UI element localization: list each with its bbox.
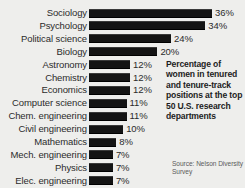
category-label: Chem. engineering xyxy=(0,110,87,121)
bar xyxy=(89,9,212,18)
bar xyxy=(89,60,130,69)
bar xyxy=(89,73,130,82)
value-label: 34% xyxy=(208,21,227,31)
category-label: Psychology xyxy=(0,20,87,31)
value-label: 7% xyxy=(116,176,130,186)
value-label: 12% xyxy=(133,73,152,83)
chart-caption: Percentage of women in tenured and tenur… xyxy=(166,59,244,121)
chart-source: Source: Nelson Diversity Survey xyxy=(172,160,244,176)
category-label: Biology xyxy=(0,46,87,57)
bar xyxy=(89,176,113,185)
bar-group: 36% xyxy=(89,8,234,18)
category-label: Economics xyxy=(0,84,87,95)
category-label: Mathematics xyxy=(0,136,87,147)
chart-row: Biology20% xyxy=(0,46,245,59)
chart-row: Elec. engineering7% xyxy=(0,175,245,188)
value-label: 7% xyxy=(116,150,130,160)
bar xyxy=(89,138,116,147)
bar xyxy=(89,99,127,108)
chart-row: Psychology34% xyxy=(0,20,245,33)
category-label: Physics xyxy=(0,162,87,173)
category-label: Elec. engineering xyxy=(0,175,87,186)
category-label: Political science xyxy=(0,33,87,44)
bar-group: 7% xyxy=(89,176,129,186)
value-label: 11% xyxy=(130,111,148,121)
bar-group: 12% xyxy=(89,73,152,83)
bar-chart: Sociology36%Psychology34%Political scien… xyxy=(0,0,245,188)
category-label: Astronomy xyxy=(0,59,87,70)
bar-group: 20% xyxy=(89,47,179,57)
bar-group: 11% xyxy=(89,111,148,121)
bar xyxy=(89,34,171,43)
chart-row: Political science24% xyxy=(0,33,245,46)
value-label: 24% xyxy=(174,34,193,44)
bar xyxy=(89,125,123,134)
bar xyxy=(89,21,205,30)
category-label: Computer science xyxy=(0,97,87,108)
category-label: Chemistry xyxy=(0,72,87,83)
value-label: 12% xyxy=(133,60,152,70)
chart-row: Civil engineering10% xyxy=(0,123,245,136)
bar-group: 10% xyxy=(89,124,145,134)
category-label: Civil engineering xyxy=(0,123,87,134)
category-label: Sociology xyxy=(0,7,87,18)
bar-group: 8% xyxy=(89,137,133,147)
bar xyxy=(89,112,127,121)
bar xyxy=(89,47,157,56)
chart-row: Sociology36% xyxy=(0,7,245,20)
value-label: 11% xyxy=(130,98,148,108)
chart-row: Mathematics8% xyxy=(0,136,245,149)
bar xyxy=(89,163,113,172)
bar xyxy=(89,150,113,159)
bar-group: 34% xyxy=(89,21,227,31)
value-label: 36% xyxy=(215,8,234,18)
bar-group: 11% xyxy=(89,98,148,108)
value-label: 20% xyxy=(160,47,179,57)
bar-group: 7% xyxy=(89,163,129,173)
value-label: 8% xyxy=(119,137,133,147)
value-label: 7% xyxy=(116,163,130,173)
bar-group: 12% xyxy=(89,85,152,95)
category-label: Mech. engineering xyxy=(0,149,87,160)
bar xyxy=(89,86,130,95)
value-label: 12% xyxy=(133,85,152,95)
bar-group: 24% xyxy=(89,34,193,44)
bar-group: 12% xyxy=(89,60,152,70)
bar-group: 7% xyxy=(89,150,129,160)
value-label: 10% xyxy=(126,124,145,134)
